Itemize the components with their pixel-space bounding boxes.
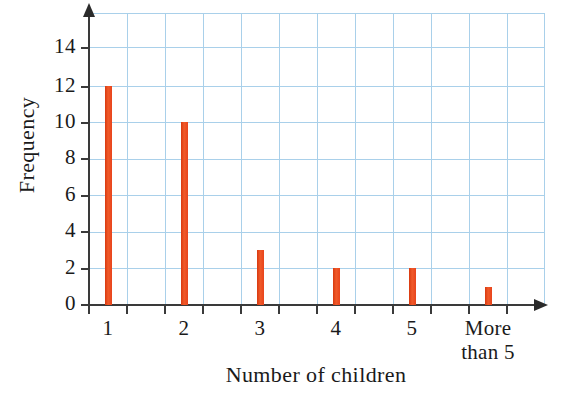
y-axis-tick (81, 122, 90, 124)
x-axis-tick (240, 305, 242, 314)
gridline-vertical (431, 13, 432, 305)
y-axis-tick (81, 86, 90, 88)
x-axis-tick (164, 305, 166, 314)
gridline-vertical (544, 13, 545, 305)
bar-category-5 (409, 268, 416, 305)
plot-area (89, 13, 545, 305)
gridline-vertical (317, 13, 318, 305)
x-axis-tick (202, 305, 204, 314)
bar-category-3 (257, 250, 264, 305)
y-tick-label: 6 (36, 184, 76, 205)
y-axis-line (88, 14, 90, 306)
gridline-vertical (355, 13, 356, 305)
x-axis-tick (354, 305, 356, 314)
x-axis-tick (506, 305, 508, 314)
gridline-vertical (203, 13, 204, 305)
bar-category-more-than-5 (485, 287, 492, 305)
gridline-vertical (241, 13, 242, 305)
frequency-bar-chart: 0 2 4 6 8 10 12 14 1 2 3 (0, 0, 561, 411)
y-axis-title: Frequency (14, 55, 40, 235)
x-axis-line (89, 304, 538, 306)
y-tick-label: 0 (36, 293, 76, 314)
y-tick-label: 14 (36, 36, 76, 57)
y-axis-arrow-icon (83, 3, 95, 17)
x-axis-tick (392, 305, 394, 314)
x-tick-label-line2: than 5 (438, 340, 538, 364)
x-tick-label-line1: More (438, 316, 538, 340)
gridline-vertical (127, 13, 128, 305)
x-axis-tick (126, 305, 128, 314)
y-tick-label: 8 (36, 147, 76, 168)
y-tick-label: 10 (36, 111, 76, 132)
y-axis-tick (81, 195, 90, 197)
y-axis-tick (81, 47, 90, 49)
gridline-vertical (469, 13, 470, 305)
x-axis-tick (278, 305, 280, 314)
bar-category-1 (105, 86, 112, 305)
y-axis-tick (81, 158, 90, 160)
x-axis-tick (88, 305, 90, 314)
gridline-vertical (165, 13, 166, 305)
y-axis-tick (81, 231, 90, 233)
y-tick-label: 12 (36, 75, 76, 96)
gridline-vertical (279, 13, 280, 305)
gridline-vertical (507, 13, 508, 305)
y-tick-label: 4 (36, 220, 76, 241)
bar-category-4 (333, 268, 340, 305)
x-axis-arrow-icon (534, 299, 548, 311)
x-axis-tick (430, 305, 432, 314)
y-tick-label: 2 (36, 257, 76, 278)
y-axis-tick (81, 268, 90, 270)
x-axis-tick (316, 305, 318, 314)
bar-category-2 (181, 122, 188, 305)
x-axis-tick (468, 305, 470, 314)
gridline-vertical (393, 13, 394, 305)
x-tick-label-more-than-5: More than 5 (438, 316, 538, 364)
x-axis-title: Number of children (96, 362, 536, 388)
